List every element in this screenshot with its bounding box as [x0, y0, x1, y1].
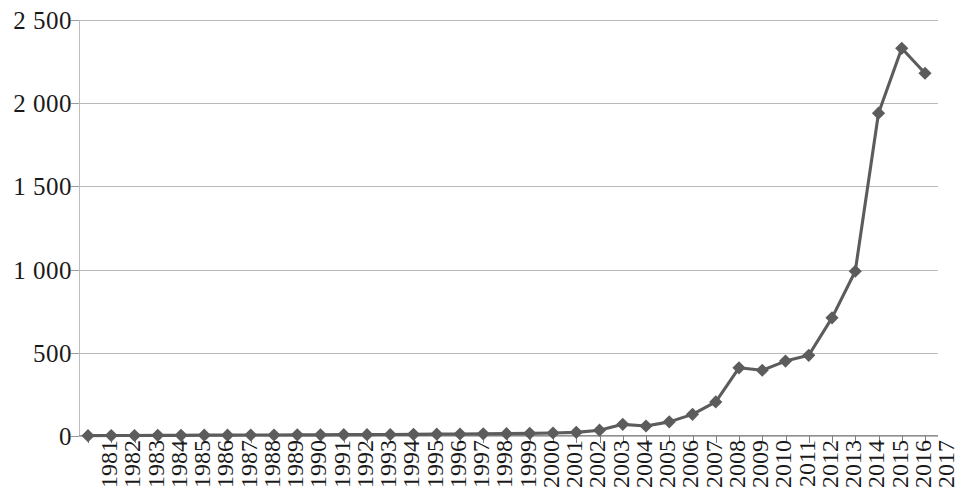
- x-axis-tick-label: 2016: [911, 440, 935, 488]
- data-point-marker: [639, 419, 652, 432]
- x-axis-tick-label: 2011: [795, 440, 819, 487]
- x-axis-tick-label: 1995: [423, 440, 447, 488]
- x-axis-tick-label-text: 1987: [237, 440, 261, 488]
- data-point-marker: [546, 426, 559, 439]
- x-axis-tick-label-text: 1999: [516, 440, 540, 488]
- x-axis-tick-label-text: 1991: [330, 440, 354, 488]
- x-axis-tick-label-text: 2014: [864, 440, 888, 488]
- data-point-marker: [430, 428, 443, 441]
- x-axis-tick-label-text: 2002: [585, 440, 609, 488]
- x-axis-tick-label-text: 2015: [888, 440, 912, 488]
- x-axis-tick-label: 1988: [260, 440, 284, 488]
- x-axis: 1981198219831984198519861987198819891990…: [79, 440, 938, 498]
- x-axis-tick-label-text: 2007: [702, 440, 726, 488]
- x-axis-tick-label: 1992: [353, 440, 377, 488]
- x-axis-tick-label: 1989: [283, 440, 307, 488]
- x-axis-tick-label: 2003: [609, 440, 633, 488]
- data-point-marker: [686, 408, 699, 421]
- x-axis-tick-label: 2010: [771, 440, 795, 488]
- plot-area: [79, 20, 938, 436]
- y-axis-tick-mark: [71, 270, 79, 271]
- x-axis-tick-label-text: 2004: [632, 440, 656, 488]
- x-axis-tick-label: 2012: [818, 440, 842, 488]
- x-axis-tick-label-text: 1981: [97, 440, 121, 488]
- x-axis-tick-label-text: 2010: [771, 440, 795, 488]
- x-axis-tick-label-text: 2016: [911, 440, 935, 488]
- x-axis-tick-label: 2008: [725, 440, 749, 488]
- x-axis-tick-label-text: 1994: [399, 440, 423, 488]
- data-point-marker: [477, 427, 490, 440]
- series-line: [88, 48, 925, 435]
- x-axis-tick-label-text: 1984: [167, 440, 191, 488]
- x-axis-tick-label-text: 1992: [353, 440, 377, 488]
- x-axis-tick-label: 1987: [237, 440, 261, 488]
- x-axis-tick-label-text: 1985: [190, 440, 214, 488]
- y-axis-tick-mark: [71, 353, 79, 354]
- data-point-marker: [756, 364, 769, 377]
- x-axis-tick-label-text: 1990: [306, 440, 330, 488]
- x-axis-tick-label-text: 2005: [655, 440, 679, 488]
- x-axis-tick-label: 1990: [306, 440, 330, 488]
- x-axis-tick-label-text: 1989: [283, 440, 307, 488]
- x-axis-tick-label: 1981: [97, 440, 121, 488]
- x-axis-tick-label-text: 1982: [120, 440, 144, 488]
- x-axis-tick-label: 2014: [864, 440, 888, 488]
- x-axis-tick-label-text: 1988: [260, 440, 284, 488]
- x-axis-tick-label: 1982: [120, 440, 144, 488]
- x-axis-tick-label: 1998: [492, 440, 516, 488]
- data-point-marker: [453, 427, 466, 440]
- y-axis-tick-label: 500: [33, 340, 72, 365]
- x-axis-tick-label-text: 2003: [609, 440, 633, 488]
- x-axis-tick-label-text: 2012: [818, 440, 842, 488]
- x-axis-tick-label: 1993: [376, 440, 400, 488]
- x-axis-tick-label-text: 2008: [725, 440, 749, 488]
- x-axis-tick-label-text: 1983: [144, 440, 168, 488]
- x-axis-tick-label-text: 1996: [446, 440, 470, 488]
- y-axis-tick-mark: [71, 436, 79, 437]
- x-axis-tick-label: 1996: [446, 440, 470, 488]
- x-axis-tick-label-text: 2009: [748, 440, 772, 488]
- data-point-marker: [593, 424, 606, 437]
- x-axis-tick-label: 2015: [888, 440, 912, 488]
- data-point-marker: [616, 418, 629, 431]
- x-axis-tick-label: 2007: [702, 440, 726, 488]
- x-axis-tick-label-text: 1998: [492, 440, 516, 488]
- data-point-marker: [407, 428, 420, 441]
- x-axis-tick-label: 2006: [678, 440, 702, 488]
- x-axis-tick-label: 1985: [190, 440, 214, 488]
- data-point-marker: [872, 107, 885, 120]
- x-axis-tick-label: 1983: [144, 440, 168, 488]
- x-axis-tick-label-text: 1993: [376, 440, 400, 488]
- x-axis-tick-label-text: 1997: [469, 440, 493, 488]
- y-axis-tick-label: 1 500: [13, 174, 72, 199]
- x-axis-tick-label-text: 2001: [562, 440, 586, 488]
- y-axis-tick-mark: [71, 103, 79, 104]
- x-axis-tick-label: 1991: [330, 440, 354, 488]
- x-axis-tick-label-text: 2017: [934, 440, 958, 488]
- x-axis-tick-label: 1986: [213, 440, 237, 488]
- y-axis-tick-label: 2 000: [13, 91, 72, 116]
- x-axis-tick-label-text: 2013: [841, 440, 865, 488]
- y-axis-tick-mark: [71, 20, 79, 21]
- x-axis-tick-label: 2009: [748, 440, 772, 488]
- x-axis-tick-label: 2004: [632, 440, 656, 488]
- x-axis-tick-label: 1984: [167, 440, 191, 488]
- x-axis-tick-label: 1997: [469, 440, 493, 488]
- x-axis-tick-label: 1994: [399, 440, 423, 488]
- x-axis-tick-label: 1999: [516, 440, 540, 488]
- x-axis-tick-label: 2002: [585, 440, 609, 488]
- x-axis-tick-label: 2013: [841, 440, 865, 488]
- data-point-marker: [849, 265, 862, 278]
- x-axis-tick-label-text: 2011: [795, 440, 819, 487]
- y-axis: 05001 0001 5002 0002 500: [0, 0, 72, 498]
- x-axis-tick-label: 2000: [539, 440, 563, 488]
- data-series: [79, 20, 938, 436]
- data-point-marker: [500, 427, 513, 440]
- x-axis-tick-label: 2017: [934, 440, 958, 488]
- y-axis-tick-label: 2 500: [13, 8, 72, 33]
- x-axis-tick-label-text: 1986: [213, 440, 237, 488]
- series-markers: [81, 42, 931, 443]
- x-axis-tick-label-text: 1995: [423, 440, 447, 488]
- data-point-marker: [663, 415, 676, 428]
